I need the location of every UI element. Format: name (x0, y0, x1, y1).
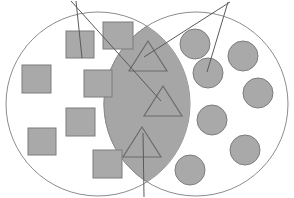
right-set-item-dot (175, 155, 205, 185)
right-set-item-dot (193, 58, 223, 88)
right-set-item-dot (228, 41, 258, 71)
right-set-item-dot (180, 29, 210, 59)
right-set-item-dot (243, 78, 273, 108)
right-set-item-dot (197, 105, 227, 135)
left-set-item-square (28, 128, 56, 155)
left-set-item-square (103, 22, 133, 49)
left-set-item-square (93, 150, 122, 178)
left-set-item-square (84, 70, 112, 97)
venn-diagram (0, 0, 294, 198)
left-set-item-square (66, 108, 95, 136)
right-set-item-dot (230, 135, 260, 165)
venn-canvas (0, 0, 294, 198)
left-set-item-square (22, 65, 51, 93)
